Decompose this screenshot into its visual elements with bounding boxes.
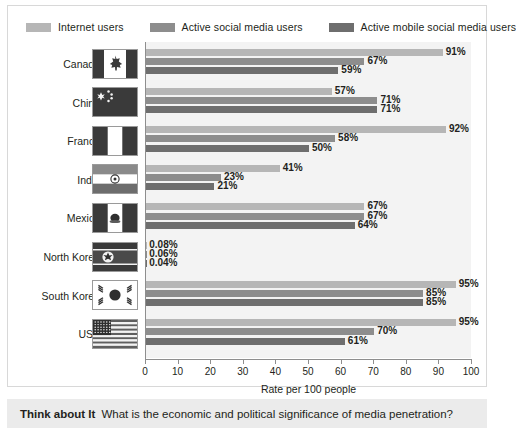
legend-label-active-social-media-users: Active social media users: [182, 21, 303, 33]
x-axis-tick-label: 10: [172, 366, 183, 377]
legend-item-internet-users: Internet users: [26, 21, 124, 33]
bar-value-label: 85%: [426, 298, 446, 305]
flag-south-korea-icon: [92, 280, 138, 310]
x-axis-tick-mark: [210, 360, 211, 364]
think-about-it-strip: Think about It What is the economic and …: [7, 399, 487, 428]
x-axis-title: Rate per 100 people: [145, 383, 472, 395]
bar-china-active-mobile-social-media-users: [146, 106, 377, 113]
x-axis-tick-mark: [145, 360, 146, 364]
flag-india-icon: [92, 164, 138, 194]
x-axis-tick-label: 60: [335, 366, 346, 377]
x-axis-tick-mark: [341, 360, 342, 364]
bar-value-label: 0.04%: [149, 259, 177, 266]
bar-usa-active-mobile-social-media-users: [146, 338, 345, 345]
think-about-it-question: What is the economic and political signi…: [101, 408, 453, 420]
bar-value-label: 23%: [224, 173, 244, 180]
legend-swatch-icon-mobile: [329, 23, 354, 32]
x-axis-tick-label: 20: [205, 366, 216, 377]
bar-value-label: 85%: [426, 289, 446, 296]
bar-india-internet-users: [146, 165, 280, 172]
bar-value-label: 61%: [348, 337, 368, 344]
chart-card: Internet users Active social media users…: [7, 5, 487, 387]
bar-usa-internet-users: [146, 319, 456, 326]
legend-swatch-icon-internet: [26, 23, 51, 32]
bar-value-label: 92%: [449, 125, 469, 132]
bar-value-label: 71%: [380, 105, 400, 112]
bar-france-active-social-media-users: [146, 135, 335, 142]
legend-item-active-mobile-social-media-users: Active mobile social media users: [329, 21, 516, 33]
plot-wrapper: 0102030405060708090100 Rate per 100 peop…: [17, 42, 479, 378]
bar-value-label: 58%: [338, 134, 358, 141]
bar-value-label: 0.06%: [149, 250, 177, 257]
bar-mexico-active-social-media-users: [146, 213, 364, 220]
flag-mexico-icon: [92, 203, 138, 233]
bar-value-label: 67%: [367, 57, 387, 64]
bar-south-korea-active-mobile-social-media-users: [146, 299, 423, 306]
x-axis-tick-label: 30: [237, 366, 248, 377]
x-axis-tick-label: 70: [368, 366, 379, 377]
bar-value-label: 67%: [367, 212, 387, 219]
bar-value-label: 70%: [377, 327, 397, 334]
bar-value-label: 59%: [341, 66, 361, 73]
bar-value-label: 21%: [217, 182, 237, 189]
bar-india-active-social-media-users: [146, 174, 221, 181]
bar-value-label: 57%: [335, 87, 355, 94]
flag-canada-icon: [92, 49, 138, 79]
x-axis-tick-mark: [406, 360, 407, 364]
x-axis-tick-mark: [373, 360, 374, 364]
x-axis-tick-label: 100: [463, 366, 480, 377]
legend-label-active-mobile-social-media-users: Active mobile social media users: [361, 21, 516, 33]
x-axis-tick-label: 40: [270, 366, 281, 377]
bar-value-label: 67%: [367, 202, 387, 209]
bar-mexico-internet-users: [146, 203, 364, 210]
bar-value-label: 41%: [283, 164, 303, 171]
x-axis-tick-mark: [471, 360, 472, 364]
bar-canada-active-mobile-social-media-users: [146, 67, 338, 74]
bar-france-internet-users: [146, 126, 446, 133]
bar-value-label: 0.08%: [149, 241, 177, 248]
x-axis-tick-mark: [178, 360, 179, 364]
bar-canada-active-social-media-users: [146, 58, 364, 65]
bar-value-label: 50%: [312, 144, 332, 151]
chart-legend: Internet users Active social media users…: [17, 17, 479, 37]
think-about-it-heading: Think about It: [20, 408, 95, 420]
flag-north-korea-icon: [92, 242, 138, 272]
bar-south-korea-internet-users: [146, 281, 456, 288]
bar-china-active-social-media-users: [146, 97, 377, 104]
bar-usa-active-social-media-users: [146, 328, 374, 335]
x-axis-tick-label: 80: [400, 366, 411, 377]
x-axis-tick-label: 0: [142, 366, 148, 377]
legend-swatch-icon-social: [150, 23, 175, 32]
x-axis-tick-mark: [308, 360, 309, 364]
x-axis-tick-label: 50: [302, 366, 313, 377]
x-axis-tick-label: 90: [433, 366, 444, 377]
legend-item-active-social-media-users: Active social media users: [150, 21, 303, 33]
bar-canada-internet-users: [146, 49, 443, 56]
bar-value-label: 91%: [446, 48, 466, 55]
x-axis-tick-mark: [438, 360, 439, 364]
x-axis-tick-mark: [243, 360, 244, 364]
bar-mexico-active-mobile-social-media-users: [146, 222, 355, 229]
bar-china-internet-users: [146, 88, 332, 95]
legend-label-internet-users: Internet users: [58, 21, 124, 33]
flag-china-icon: [92, 87, 138, 117]
bar-value-label: 95%: [459, 280, 479, 287]
bar-value-label: 71%: [380, 96, 400, 103]
bar-value-label: 64%: [358, 221, 378, 228]
bar-india-active-mobile-social-media-users: [146, 183, 214, 190]
bar-france-active-mobile-social-media-users: [146, 145, 309, 152]
bar-south-korea-active-social-media-users: [146, 290, 423, 297]
flag-usa-icon: [92, 319, 138, 349]
x-axis-tick-mark: [275, 360, 276, 364]
bar-value-label: 95%: [459, 318, 479, 325]
flag-france-icon: [92, 126, 138, 156]
